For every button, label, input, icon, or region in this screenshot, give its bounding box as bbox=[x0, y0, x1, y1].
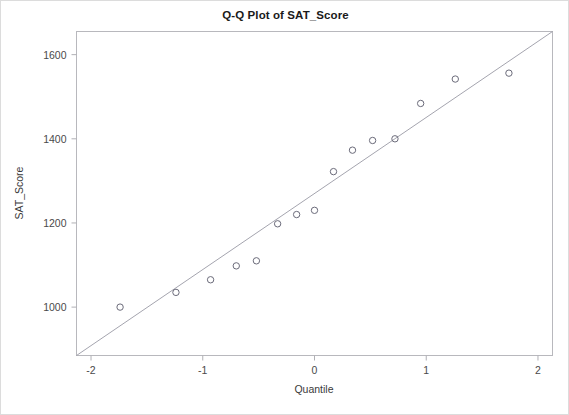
x-tick-label: -2 bbox=[86, 364, 95, 376]
y-tick-label: 1000 bbox=[43, 301, 67, 313]
x-tick-label: -1 bbox=[198, 364, 207, 376]
y-tick-label: 1400 bbox=[43, 133, 67, 145]
y-tick-label: 1600 bbox=[43, 49, 67, 61]
y-axis-label: SAT_Score bbox=[13, 166, 25, 219]
y-axis-ticks: 1000120014001600 bbox=[43, 49, 76, 313]
x-axis-ticks: -2-1012 bbox=[86, 356, 541, 376]
x-axis-label: Quantile bbox=[294, 383, 333, 395]
x-tick-label: 2 bbox=[535, 364, 541, 376]
x-tick-label: 1 bbox=[423, 364, 429, 376]
y-tick-label: 1200 bbox=[43, 217, 67, 229]
qq-plot-figure: 1000120014001600 -2-1012 Quantile SAT_Sc… bbox=[1, 1, 569, 415]
qq-plot-screenshot: Q-Q Plot of SAT_Score 1000120014001600 -… bbox=[0, 0, 569, 415]
x-tick-label: 0 bbox=[312, 364, 318, 376]
